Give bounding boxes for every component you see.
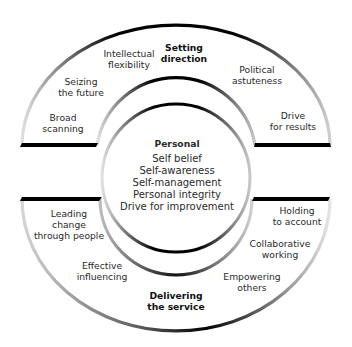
- personal-item: Self belief: [120, 153, 234, 165]
- personal-item: Self-awareness: [120, 165, 234, 177]
- item-leading-change-through-people: Leading change through people: [34, 208, 104, 241]
- item-effective-influencing: Effective influencing: [77, 260, 128, 282]
- personal-item: Personal integrity: [120, 189, 234, 201]
- personal-section: Personal Self belief Self-awareness Self…: [120, 138, 234, 213]
- personal-title: Personal: [120, 138, 234, 149]
- setting-direction-title: Setting direction: [161, 42, 207, 64]
- item-intellectual-flexibility: Intellectual flexibility: [103, 48, 154, 70]
- item-seizing-the-future: Seizing the future: [58, 76, 104, 98]
- item-holding-to-account: Holding to account: [273, 205, 322, 227]
- delivering-service-title: Delivering the service: [147, 290, 204, 312]
- item-drive-for-results: Drive for results: [270, 110, 316, 132]
- personal-item: Self-management: [120, 177, 234, 189]
- item-collaborative-working: Collaborative working: [250, 238, 311, 260]
- item-broad-scanning: Broad scanning: [42, 112, 83, 134]
- personal-item: Drive for improvement: [120, 201, 234, 213]
- item-empowering-others: Empowering others: [223, 271, 280, 293]
- item-political-astuteness: Political astuteness: [232, 64, 282, 86]
